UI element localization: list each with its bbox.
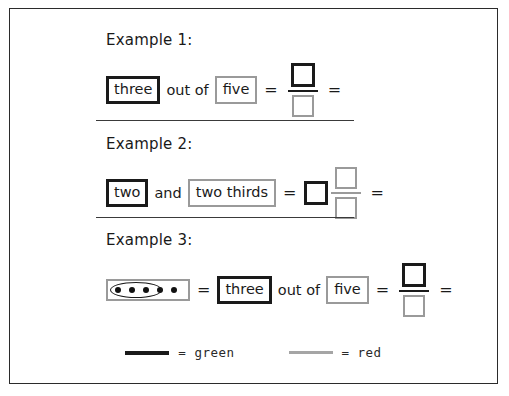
equals-sign-7: = — [432, 282, 459, 298]
equals-sign-5: = — [190, 282, 217, 298]
legend-item-red: = red — [289, 345, 382, 360]
fraction-bar-green — [288, 90, 318, 92]
example-2-title: Example 2: — [106, 135, 192, 153]
example-1-expression: three out of five = = — [106, 63, 348, 117]
fraction-answer-1 — [288, 63, 318, 117]
example-1-title: Example 1: — [106, 31, 192, 49]
legend-label-red: = red — [342, 345, 382, 360]
fraction-bar-green — [399, 290, 429, 292]
worksheet-frame: Example 1: three out of five = = Example… — [9, 8, 498, 384]
connector-and: and — [148, 186, 187, 201]
fraction-answer-3 — [399, 263, 429, 317]
example-2-expression: two and two thirds = = — [106, 167, 391, 219]
divider-1 — [96, 120, 354, 121]
connector-out-of: out of — [160, 83, 214, 98]
legend-item-green: = green — [125, 345, 234, 360]
divider-2 — [96, 217, 354, 218]
example-3-expression: = three out of five = = — [106, 263, 460, 317]
word-box-two-green[interactable]: two — [106, 179, 148, 207]
denominator-square-red[interactable] — [335, 197, 357, 219]
equals-sign-4: = — [364, 185, 391, 201]
grouping-ellipse — [110, 282, 162, 298]
example-3-title: Example 3: — [106, 231, 192, 249]
numerator-square-green[interactable] — [402, 263, 426, 287]
dot — [171, 287, 177, 293]
equals-sign-2: = — [321, 82, 348, 98]
green-line-swatch — [125, 351, 169, 355]
denominator-square-red[interactable] — [403, 295, 425, 317]
red-line-swatch — [289, 351, 333, 354]
numerator-square-red[interactable] — [335, 167, 357, 189]
fraction-answer-2 — [331, 167, 361, 219]
connector-out-of: out of — [272, 283, 326, 298]
dot-diagram[interactable] — [106, 279, 190, 301]
word-box-five-red[interactable]: five — [326, 276, 369, 304]
equals-sign-6: = — [369, 282, 396, 298]
whole-number-square-green[interactable] — [304, 181, 328, 205]
word-box-three-green[interactable]: three — [217, 276, 271, 304]
equals-sign-3: = — [276, 185, 303, 201]
equals-sign-1: = — [257, 82, 284, 98]
word-box-two-thirds-red[interactable]: two thirds — [188, 179, 276, 207]
word-box-five-red[interactable]: five — [215, 76, 258, 104]
denominator-square-red[interactable] — [292, 95, 314, 117]
word-box-three-green[interactable]: three — [106, 76, 160, 104]
legend: = green = red — [10, 345, 497, 360]
legend-label-green: = green — [178, 345, 234, 360]
fraction-bar-red — [331, 192, 361, 194]
numerator-square-green[interactable] — [291, 63, 315, 87]
